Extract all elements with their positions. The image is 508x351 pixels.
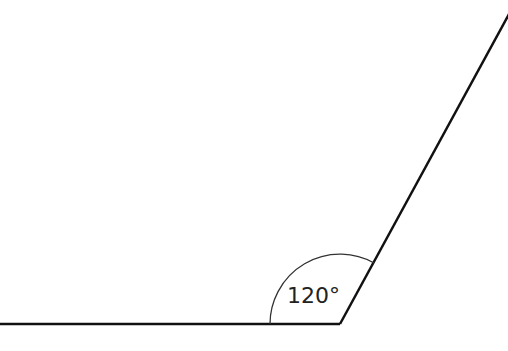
- angle-diagram: 120°: [0, 0, 508, 351]
- angle-label: 120°: [287, 283, 340, 308]
- slanted-ray: [340, 14, 508, 324]
